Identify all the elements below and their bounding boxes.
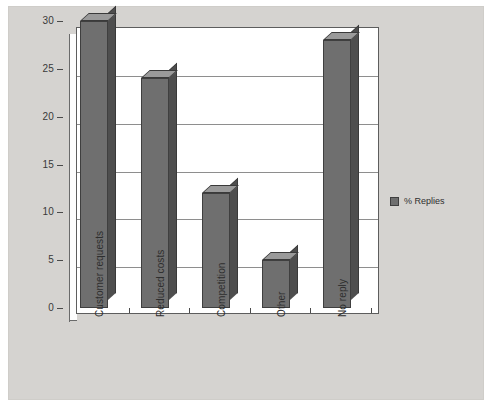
x-axis-category-label: No reply <box>337 279 348 317</box>
x-axis-tick-mark <box>310 308 311 313</box>
y-axis-tick-label: 20 <box>28 112 54 122</box>
y-axis-tick-mark <box>57 21 63 22</box>
x-axis-category-label: Customer requests <box>94 231 105 317</box>
y-axis-tick-mark <box>57 165 63 166</box>
y-axis-tick-label: 5 <box>28 255 54 265</box>
bar-side-face <box>108 6 116 300</box>
x-axis-category-label: Other <box>276 291 287 317</box>
y-axis-tick-mark <box>57 260 63 261</box>
bar-5[interactable] <box>323 32 351 308</box>
legend-label-replies: % Replies <box>404 196 445 206</box>
y-axis-tick-label: 0 <box>28 303 54 313</box>
y-axis-tick-mark <box>57 69 63 70</box>
y-axis-tick-label: 15 <box>28 160 54 170</box>
y-axis-tick-label: 10 <box>28 207 54 217</box>
y-axis-tick-mark <box>57 212 63 213</box>
x-axis-tick-mark <box>250 308 251 313</box>
bar-side-face <box>169 63 177 300</box>
x-axis-tick-mark <box>371 308 372 313</box>
chart-canvas: 051015202530 Customer requestsReduced co… <box>8 6 484 400</box>
x-axis-tick-mark <box>129 308 130 313</box>
x-axis-tick-mark <box>189 308 190 313</box>
y-axis-tick-label: 25 <box>28 64 54 74</box>
y-axis-tick-label: 30 <box>28 16 54 26</box>
x-axis-category-label: Competition <box>216 263 227 317</box>
legend-swatch-replies <box>390 197 399 206</box>
y-axis-tick-mark <box>57 117 63 118</box>
chart-legend: % Replies <box>390 196 445 206</box>
bar-side-face <box>230 178 238 300</box>
bar-front-face <box>323 40 351 308</box>
y-axis-tick-mark <box>57 308 63 309</box>
chart-screenshot: 051015202530 Customer requestsReduced co… <box>0 0 493 419</box>
bar-side-face <box>351 25 359 300</box>
x-axis-category-label: Reduced costs <box>155 250 166 317</box>
